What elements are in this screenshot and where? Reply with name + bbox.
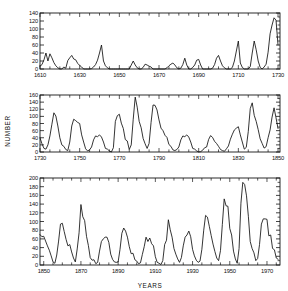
y-tick-label: 0 xyxy=(35,149,38,155)
x-axis-title: YEARS xyxy=(138,282,163,289)
y-tick-label: 120 xyxy=(29,210,38,216)
y-tick-label: 40 xyxy=(32,50,38,56)
y-tick-label: 80 xyxy=(32,227,38,233)
y-tick-label: 60 xyxy=(32,236,38,242)
sunspot-series-line xyxy=(40,18,278,69)
chart-svg: NUMBER YEARS 161016301650167016901710173… xyxy=(0,0,288,291)
y-tick-label: 20 xyxy=(32,253,38,259)
x-tick-label: 1870 xyxy=(75,268,87,274)
x-tick-label: 1670 xyxy=(153,72,165,78)
sunspot-series-line xyxy=(40,182,278,264)
y-tick-label: 140 xyxy=(29,99,38,105)
y-tick-label: 140 xyxy=(29,10,38,16)
x-tick-label: 1650 xyxy=(113,72,125,78)
x-tick-label: 1690 xyxy=(193,72,205,78)
y-tick-label: 100 xyxy=(29,26,38,32)
panel-1850-1976: 1850187018901910193019501970020406080100… xyxy=(29,175,280,274)
y-tick-label: 160 xyxy=(29,192,38,198)
x-tick-label: 1750 xyxy=(74,155,86,161)
x-tick-label: 1730 xyxy=(272,72,284,78)
x-tick-label: 1610 xyxy=(34,72,46,78)
x-tick-label: 1950 xyxy=(224,268,236,274)
y-tick-label: 100 xyxy=(29,219,38,225)
y-tick-label: 40 xyxy=(32,135,38,141)
x-tick-label: 1850 xyxy=(272,155,284,161)
x-tick-label: 1630 xyxy=(74,72,86,78)
y-tick-label: 20 xyxy=(32,142,38,148)
x-tick-label: 1730 xyxy=(34,155,46,161)
y-axis-title: NUMBER xyxy=(4,115,11,146)
y-tick-label: 120 xyxy=(29,106,38,112)
x-tick-label: 1790 xyxy=(153,155,165,161)
x-tick-label: 1890 xyxy=(112,268,124,274)
y-tick-label: 120 xyxy=(29,18,38,24)
x-tick-label: 1830 xyxy=(232,155,244,161)
y-tick-label: 40 xyxy=(32,245,38,251)
y-tick-label: 60 xyxy=(32,42,38,48)
y-tick-label: 0 xyxy=(35,262,38,268)
x-tick-label: 1810 xyxy=(193,155,205,161)
sunspot-figure: NUMBER YEARS 161016301650167016901710173… xyxy=(0,0,288,291)
y-tick-label: 20 xyxy=(32,58,38,64)
y-tick-label: 200 xyxy=(29,175,38,181)
panel-1730-1850: 1730175017701790181018301850020406080100… xyxy=(29,92,284,161)
sunspot-series-line xyxy=(40,97,278,152)
y-tick-label: 80 xyxy=(32,121,38,127)
x-tick-label: 1850 xyxy=(38,268,50,274)
x-tick-label: 1970 xyxy=(261,268,273,274)
y-tick-label: 60 xyxy=(32,128,38,134)
y-tick-label: 0 xyxy=(35,66,38,72)
y-tick-label: 140 xyxy=(29,201,38,207)
x-tick-label: 1910 xyxy=(149,268,161,274)
y-tick-label: 80 xyxy=(32,34,38,40)
y-tick-label: 180 xyxy=(29,184,38,190)
x-tick-label: 1770 xyxy=(113,155,125,161)
panel-1610-1730: 1610163016501670169017101730020406080100… xyxy=(29,10,284,78)
x-tick-label: 1710 xyxy=(232,72,244,78)
x-tick-label: 1930 xyxy=(187,268,199,274)
y-tick-label: 160 xyxy=(29,92,38,98)
y-tick-label: 100 xyxy=(29,113,38,119)
